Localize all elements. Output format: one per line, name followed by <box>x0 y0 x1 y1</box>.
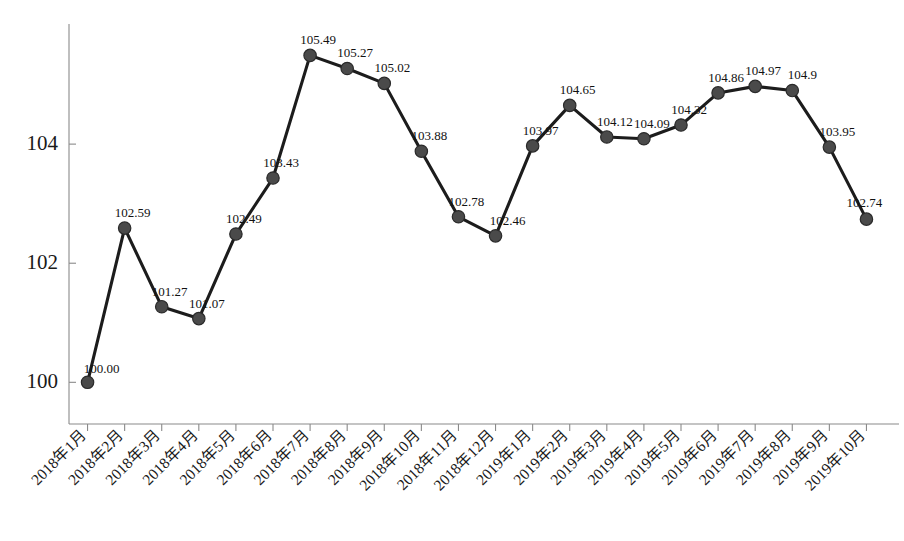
data-point-label: 102.46 <box>490 213 526 228</box>
data-point-marker <box>823 141 835 153</box>
data-point-label: 102.74 <box>847 195 883 210</box>
data-point-label: 104.32 <box>671 102 707 117</box>
y-tick-label: 104 <box>27 131 59 155</box>
data-point-label: 102.59 <box>115 205 151 220</box>
data-point-marker <box>118 222 130 234</box>
data-point-label: 103.95 <box>819 124 855 139</box>
data-point-marker <box>267 172 279 184</box>
data-point-marker <box>156 300 168 312</box>
data-point-marker <box>304 49 316 61</box>
data-point-labels: 100.00102.59101.27101.07102.49103.43105.… <box>84 32 883 376</box>
data-point-label: 105.02 <box>374 60 410 75</box>
data-point-marker <box>81 376 93 388</box>
data-point-label: 104.65 <box>560 82 596 97</box>
data-point-label: 100.00 <box>84 361 120 376</box>
line-chart: 100102104 100.00102.59101.27101.07102.49… <box>0 0 904 541</box>
data-point-label: 102.49 <box>226 211 262 226</box>
series-polyline <box>88 55 867 382</box>
data-point-marker <box>489 230 501 242</box>
data-point-marker <box>564 99 576 111</box>
data-point-marker <box>193 312 205 324</box>
data-point-marker <box>230 228 242 240</box>
data-point-marker <box>786 84 798 96</box>
x-tick-labels: 2018年1月2018年2月2018年3月2018年4月2018年5月2018年… <box>28 426 869 494</box>
data-point-label: 104.9 <box>788 67 817 82</box>
data-point-marker <box>860 213 872 225</box>
data-point-label: 101.07 <box>189 296 225 311</box>
y-axis: 100102104 <box>27 24 77 424</box>
data-point-label: 104.97 <box>745 63 781 78</box>
data-point-marker <box>712 87 724 99</box>
chart-container: 100102104 100.00102.59101.27101.07102.49… <box>0 0 904 541</box>
data-point-marker <box>675 119 687 131</box>
data-point-label: 104.09 <box>634 116 670 131</box>
data-point-marker <box>601 131 613 143</box>
data-series <box>81 49 872 388</box>
data-point-label: 102.78 <box>449 194 485 209</box>
data-point-label: 103.97 <box>523 123 559 138</box>
y-tick-label: 102 <box>27 250 59 274</box>
data-point-label: 104.12 <box>597 114 633 129</box>
data-point-marker <box>415 145 427 157</box>
data-point-marker <box>638 133 650 145</box>
data-point-label: 103.43 <box>263 155 299 170</box>
data-point-marker <box>749 80 761 92</box>
data-point-marker <box>341 62 353 74</box>
data-point-marker <box>378 77 390 89</box>
data-point-label: 101.27 <box>152 284 188 299</box>
data-point-label: 103.88 <box>411 128 447 143</box>
data-point-label: 104.86 <box>708 70 744 85</box>
y-tick-label: 100 <box>27 369 59 393</box>
data-point-label: 105.27 <box>337 45 373 60</box>
data-point-marker <box>526 140 538 152</box>
data-point-label: 105.49 <box>300 32 336 47</box>
data-point-marker <box>452 211 464 223</box>
